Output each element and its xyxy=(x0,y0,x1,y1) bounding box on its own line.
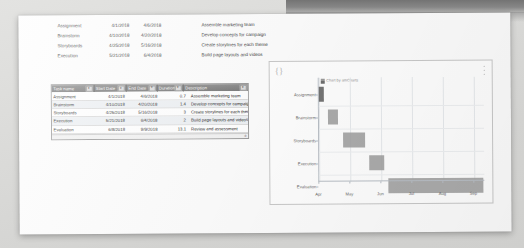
cell-description: Build page layouts and videos xyxy=(189,118,248,123)
task-start-date: 4/1/2018 xyxy=(97,24,129,29)
task-name: Brainstorm xyxy=(57,34,97,39)
cell-task-name: Storyboards xyxy=(52,110,94,115)
task-name: Assignment xyxy=(57,24,97,29)
gantt-bar-execution xyxy=(369,155,384,170)
column-header-label: Description xyxy=(185,86,207,91)
cell-start-date: 6/8/2018 xyxy=(94,127,129,132)
cell-duration: 0.7 xyxy=(160,93,189,98)
cell-end-date: 5/16/2018 xyxy=(128,110,161,115)
table-header-row: Task name ▾ Start Date ▾ End Date ▾ Dura… xyxy=(52,84,248,93)
x-axis-label: Jul xyxy=(409,191,414,196)
list-item: Storyboards 4/25/2018 5/16/2018 Create s… xyxy=(58,43,278,49)
y-axis-label: Assignment xyxy=(274,92,316,97)
y-axis-label: Execution xyxy=(274,161,316,166)
new-record-row[interactable]: ✲ xyxy=(52,133,248,139)
task-description: Assemble marketing team xyxy=(165,23,254,28)
cell-task-name: Evaluation xyxy=(52,127,94,132)
cell-description: Review and assessment xyxy=(189,126,248,131)
cell-task-name: Assignment xyxy=(52,94,94,99)
cell-start-date: 4/25/2018 xyxy=(93,110,128,115)
new-record-icon[interactable]: ✲ xyxy=(244,134,247,138)
cell-duration: 2 xyxy=(160,118,189,123)
chevron-down-icon[interactable]: ▾ xyxy=(175,85,182,92)
cell-task-name: Brainstorm xyxy=(52,102,94,107)
chart-menu-icon[interactable] xyxy=(482,66,487,75)
column-header-label: Duration xyxy=(159,86,175,91)
list-item: Assignment 4/1/2018 4/6/2018 Assemble ma… xyxy=(57,23,277,29)
gantt-bar-brainstorm xyxy=(328,110,338,125)
task-end-date: 4/6/2018 xyxy=(129,24,165,29)
cell-duration: 13.1 xyxy=(161,126,190,131)
chevron-down-icon[interactable]: ▾ xyxy=(240,85,247,92)
column-header-label: Task name xyxy=(53,86,74,91)
braces-icon: {} xyxy=(275,66,287,76)
task-end-date: 4/20/2018 xyxy=(129,34,165,39)
cell-end-date: 9/9/2018 xyxy=(128,126,161,131)
x-axis-label: May xyxy=(345,191,353,196)
column-header-task-name[interactable]: Task name ▾ xyxy=(52,85,95,93)
x-axis-label: Aug xyxy=(439,191,446,196)
y-axis-label: Evaluation xyxy=(274,184,316,189)
cell-duration: 3 xyxy=(160,110,189,115)
x-axis-label: Apr xyxy=(315,192,322,197)
x-axis-label: Jun xyxy=(377,191,384,196)
task-name: Storyboards xyxy=(58,44,98,49)
chevron-down-icon[interactable]: ▾ xyxy=(86,85,93,92)
cell-start-date: 4/10/2018 xyxy=(93,102,128,107)
column-header-label: Start Date xyxy=(96,86,115,91)
task-description: Develop concepts for campaign xyxy=(165,33,265,38)
task-start-date: 4/25/2018 xyxy=(98,44,130,49)
cell-start-date: 4/1/2018 xyxy=(93,93,128,98)
cell-description: Develop concepts for campaign xyxy=(189,101,248,106)
task-name: Execution xyxy=(58,54,98,59)
chevron-down-icon[interactable]: ▾ xyxy=(118,85,125,92)
y-axis-label: Storyboards xyxy=(274,138,316,143)
y-axis-tick xyxy=(316,186,319,187)
y-axis-label: Brainstorm xyxy=(274,115,316,120)
cell-description: Create storylines for each theme xyxy=(189,109,248,114)
column-header-start-date[interactable]: Start Date ▾ xyxy=(94,85,127,93)
datasheet-table[interactable]: Task name ▾ Start Date ▾ End Date ▾ Dura… xyxy=(51,83,249,140)
gantt-chart-panel[interactable]: {} Chart by amCharts Assignment Brainsto… xyxy=(269,60,494,205)
column-header-duration[interactable]: Duration ▾ xyxy=(157,84,184,92)
cell-end-date: 4/20/2018 xyxy=(128,101,161,106)
task-list-plain: Assignment 4/1/2018 4/6/2018 Assemble ma… xyxy=(57,23,277,64)
task-description: Build page layouts and videos xyxy=(166,53,263,58)
task-end-date: 5/16/2018 xyxy=(130,44,166,49)
task-start-date: 5/21/2018 xyxy=(98,54,130,59)
task-start-date: 4/10/2018 xyxy=(97,34,129,39)
plot-area xyxy=(318,77,485,182)
document-page: Assignment 4/1/2018 4/6/2018 Assemble ma… xyxy=(18,12,511,234)
cell-end-date: 4/6/2018 xyxy=(128,93,161,98)
gantt-bar-assignment xyxy=(319,87,324,102)
column-header-label: End Date xyxy=(128,86,146,91)
cell-task-name: Execution xyxy=(52,118,94,123)
list-item: Execution 5/21/2018 6/4/2018 Build page … xyxy=(58,53,278,59)
gantt-bar-storyboards xyxy=(343,132,365,147)
column-header-description[interactable]: Description ▾ xyxy=(184,84,248,92)
cell-description: Assemble marketing team xyxy=(189,93,248,98)
cell-duration: 1.4 xyxy=(160,101,189,106)
list-item: Brainstorm 4/10/2018 4/20/2018 Develop c… xyxy=(57,33,277,39)
chevron-down-icon[interactable]: ▾ xyxy=(149,85,156,92)
cell-end-date: 6/4/2018 xyxy=(128,118,161,123)
x-axis-label: Sep xyxy=(470,191,477,196)
cell-start-date: 5/21/2018 xyxy=(93,118,128,123)
column-header-end-date[interactable]: End Date ▾ xyxy=(127,85,158,93)
task-description: Create storylines for each theme xyxy=(166,43,268,48)
task-end-date: 6/4/2018 xyxy=(130,54,166,59)
